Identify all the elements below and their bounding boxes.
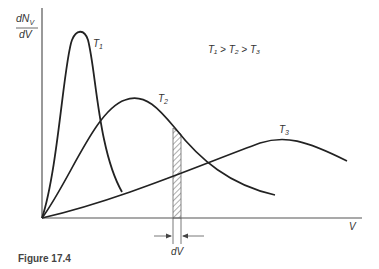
curve-t2 [42, 98, 275, 218]
dv-left-arrowhead [166, 234, 172, 239]
label-t3: T3 [279, 124, 289, 136]
curve-t1 [42, 32, 122, 218]
label-t2: T2 [158, 93, 168, 105]
temperature-relation: T₁ > T₂ > T₃ [208, 44, 260, 55]
x-axis-label: V [349, 221, 357, 232]
figure-caption: Figure 17.4 [18, 253, 71, 264]
dv-label: dV [171, 246, 185, 257]
velocity-distribution-diagram: dNV dV T1 T2 T3 T₁ > T₂ > T₃ V dV Figure… [0, 0, 379, 269]
y-axis-label-numerator: dNV [16, 12, 35, 26]
dv-right-arrowhead [182, 234, 188, 239]
y-axis-label-denominator: dV [19, 28, 33, 40]
label-t1: T1 [93, 38, 103, 50]
